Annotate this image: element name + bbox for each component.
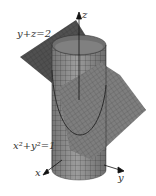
cylinder-equation-label: x²+y²=1: [13, 141, 55, 151]
z-axis-label: z: [82, 10, 87, 20]
y-axis-label: y: [118, 173, 124, 183]
z-axis-arrow: [77, 12, 82, 19]
plane-equation-label: y+z=2: [17, 29, 51, 39]
x-axis-arrow: [43, 169, 49, 175]
plane-front-right: [106, 66, 146, 140]
x-axis-label: x: [35, 168, 41, 178]
